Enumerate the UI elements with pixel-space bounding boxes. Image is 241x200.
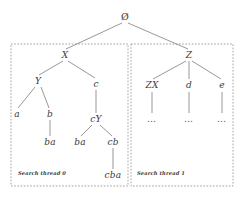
tree-node-dots-d: …: [184, 115, 194, 124]
tree-node-ba-right: ba: [74, 138, 86, 147]
tree-node-X: X: [62, 51, 69, 60]
tree-node-Z: Z: [186, 51, 192, 60]
tree-node-d: d: [186, 81, 192, 90]
tree-node-c: c: [93, 80, 98, 89]
thread-caption-thread-1: Search thread 1: [137, 170, 185, 176]
thread-box-layer: [11, 44, 233, 186]
tree-edge-cY-to-cb: [100, 125, 112, 136]
tree-node-cb: cb: [107, 138, 118, 147]
tree-node-dots-ZX: …: [147, 115, 157, 124]
tree-node-root: Ø: [121, 12, 129, 22]
tree-edge-X-to-c: [68, 61, 95, 78]
tree-edge-root-to-Z: [128, 23, 188, 49]
tree-edge-Z-to-ZX: [153, 61, 186, 79]
tree-edge-X-to-Y: [39, 61, 63, 75]
tree-edge-layer: [18, 23, 222, 169]
thread-caption-thread-0: Search thread 0: [18, 170, 66, 176]
tree-node-cba: cba: [105, 171, 122, 180]
tree-node-e: e: [219, 81, 225, 90]
diagram-canvas: ØXZYcabcYbabacbcbaZXde……… Search thread …: [0, 0, 241, 200]
tree-node-Y: Y: [35, 77, 41, 86]
tree-node-cY: cY: [90, 115, 101, 124]
tree-node-ba-left: ba: [44, 138, 56, 147]
tree-edge-root-to-X: [66, 23, 122, 49]
tree-edge-Z-to-e: [192, 61, 221, 79]
tree-edge-cY-to-ba-right: [81, 125, 92, 136]
tree-edge-Y-to-a: [18, 87, 35, 108]
tree-node-a: a: [14, 110, 20, 119]
thread-box-0: [11, 44, 128, 186]
tree-node-ZX: ZX: [145, 81, 158, 90]
tree-edge-Y-to-b: [41, 87, 49, 108]
tree-node-dots-e: …: [217, 115, 227, 124]
tree-node-b: b: [47, 110, 53, 119]
